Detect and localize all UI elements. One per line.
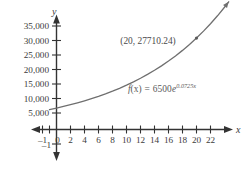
x-tick-label: 20: [192, 135, 202, 145]
exponential-growth-figure: 5,000 10,000 15,000 20,000 25,000 30,000…: [0, 0, 245, 170]
y-tick-label: 5,000: [28, 108, 49, 118]
x-axis-left-arrow: [31, 126, 40, 133]
y-tick-label: 15,000: [24, 79, 50, 89]
equation-equals: =: [145, 84, 150, 94]
x-tick-label: 16: [164, 135, 174, 145]
x-tick-label: 8: [110, 135, 115, 145]
x-tick-label: 10: [122, 135, 132, 145]
y-axis-down-arrow: [53, 152, 60, 161]
y-tick-label: 35,000: [24, 21, 50, 31]
equation-paren-x: (x): [131, 84, 142, 95]
x-tick-label: –1: [37, 135, 48, 145]
y-tick-label: 20,000: [24, 65, 50, 75]
y-tick-label: 10,000: [24, 94, 50, 104]
x-tick-label: 14: [150, 135, 160, 145]
x-tick-label: 12: [136, 135, 146, 145]
y-axis-label: y: [51, 6, 57, 17]
x-tick-label: 4: [82, 135, 87, 145]
x-tick-label: 18: [178, 135, 188, 145]
x-tick-label: 22: [206, 135, 216, 145]
x-axis-right-arrow: [224, 126, 233, 133]
x-tick-label: 6: [96, 135, 101, 145]
point-annotation-label: (20, 27710.24): [120, 36, 175, 47]
data-point-marker: [195, 36, 198, 39]
equation-coefficient: 6500: [153, 84, 172, 94]
y-tick-label: 25,000: [24, 50, 50, 60]
x-tick-label: 2: [68, 135, 73, 145]
chart-canvas: 5,000 10,000 15,000 20,000 25,000 30,000…: [0, 0, 245, 170]
y-tick-label: 30,000: [24, 36, 50, 46]
x-axis-tick-labels: –1 0 2 4 6 8 10 12 14 16 18 20 22: [37, 135, 216, 145]
x-tick-label: 0: [55, 135, 60, 145]
equation-annotation: f(x)=6500e0.0725x: [128, 82, 196, 95]
equation-exponent: 0.0725x: [176, 82, 196, 89]
svg-text:f(x)=6500e0.0725x: f(x)=6500e0.0725x: [128, 82, 196, 95]
x-axis-label: x: [235, 124, 241, 135]
